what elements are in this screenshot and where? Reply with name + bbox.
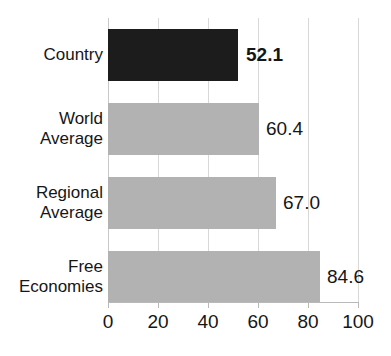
x-tick-40	[208, 302, 209, 308]
bar-regional-average[interactable]	[108, 177, 276, 229]
x-tick-0	[108, 302, 109, 308]
chart-title	[0, 0, 391, 4]
bar-world-average[interactable]	[108, 103, 259, 155]
category-label-free-economies-line-2: Economies	[3, 277, 103, 297]
category-label-world-average: World Average	[3, 109, 103, 149]
category-label-free-economies: Free Economies	[3, 257, 103, 297]
x-tick-80	[308, 302, 309, 308]
value-label-world-average: 60.4	[266, 119, 303, 138]
value-label-country: 52.1	[246, 45, 283, 64]
x-tick-label-80: 80	[297, 312, 318, 331]
category-label-world-average-line-2: Average	[3, 129, 103, 149]
x-tick-label-40: 40	[197, 312, 218, 331]
gridline-100	[358, 18, 359, 302]
value-label-free-economies: 84.6	[327, 267, 364, 286]
plot-area	[108, 18, 358, 302]
category-label-country-line-1: Country	[3, 45, 103, 65]
x-tick-60	[258, 302, 259, 308]
bar-band-world-average	[108, 103, 358, 155]
bar-band-free-economies	[108, 251, 358, 303]
x-tick-label-60: 60	[247, 312, 268, 331]
x-tick-20	[158, 302, 159, 308]
bar-free-economies[interactable]	[108, 251, 320, 303]
category-label-free-economies-line-1: Free	[3, 257, 103, 277]
bar-band-country	[108, 29, 358, 81]
x-tick-label-100: 100	[342, 312, 374, 331]
x-tick-100	[358, 302, 359, 308]
category-label-regional-average: Regional Average	[3, 183, 103, 223]
value-label-regional-average: 67.0	[283, 193, 320, 212]
x-axis-line	[108, 302, 359, 303]
x-tick-label-20: 20	[147, 312, 168, 331]
bar-country[interactable]	[108, 29, 238, 81]
category-label-regional-average-line-2: Average	[3, 203, 103, 223]
bar-chart: 52.1 60.4 67.0 84.6 Country World Averag…	[0, 0, 391, 356]
category-label-regional-average-line-1: Regional	[3, 183, 103, 203]
category-label-world-average-line-1: World	[3, 109, 103, 129]
x-tick-label-0: 0	[103, 312, 114, 331]
category-axis: Country World Average Regional Average F…	[0, 18, 103, 302]
category-label-country: Country	[3, 45, 103, 65]
bar-band-regional-average	[108, 177, 358, 229]
